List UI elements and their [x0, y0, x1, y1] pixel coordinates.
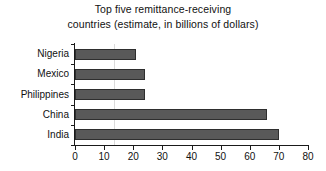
x-tick-mark [75, 146, 76, 150]
x-tick-label-20: 20 [118, 151, 148, 163]
x-tick-label-50: 50 [206, 151, 236, 163]
x-tick-mark [162, 146, 163, 150]
x-tick-label-30: 30 [147, 151, 177, 163]
x-tick-label-80: 80 [293, 151, 323, 163]
x-tick-mark [279, 146, 280, 150]
x-tick-mark [308, 146, 309, 150]
x-tick-label-10: 10 [89, 151, 119, 163]
x-tick-mark [192, 146, 193, 150]
y-tick-label-mexico: Mexico [0, 68, 69, 79]
x-tick-mark [133, 146, 134, 150]
x-tick-mark [221, 146, 222, 150]
chart-title: Top five remittance-receiving countries … [0, 2, 326, 32]
chart-figure: Top five remittance-receiving countries … [0, 0, 326, 171]
x-tick-label-0: 0 [60, 151, 90, 163]
chart-title-line-2: countries (estimate, in billions of doll… [0, 17, 326, 32]
bar-india [75, 129, 279, 140]
y-tick-mark [71, 125, 75, 126]
y-tick-label-china: China [0, 109, 69, 120]
plot-area [75, 44, 308, 145]
y-tick-mark [71, 64, 75, 65]
bar-china [75, 109, 267, 120]
y-tick-label-india: India [0, 129, 69, 140]
x-tick-mark [250, 146, 251, 150]
x-tick-label-40: 40 [177, 151, 207, 163]
x-tick-mark [104, 146, 105, 150]
y-tick-label-nigeria: Nigeria [0, 48, 69, 59]
y-tick-mark [71, 44, 75, 45]
chart-title-line-1: Top five remittance-receiving [0, 2, 326, 17]
bar-nigeria [75, 49, 136, 60]
x-tick-label-60: 60 [235, 151, 265, 163]
bar-philippines [75, 89, 145, 100]
y-tick-mark [71, 105, 75, 106]
y-tick-mark [71, 84, 75, 85]
y-tick-label-philippines: Philippines [0, 89, 69, 100]
x-tick-label-70: 70 [264, 151, 294, 163]
bar-mexico [75, 69, 145, 80]
